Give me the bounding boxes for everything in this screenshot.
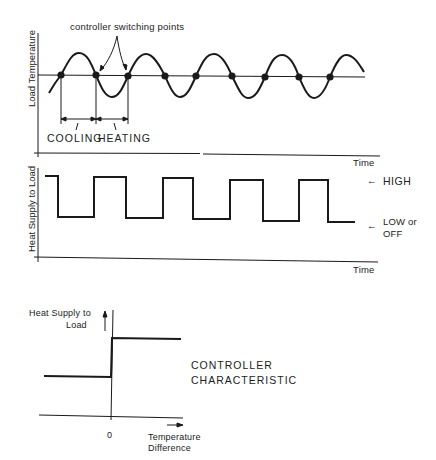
top-x-axis-right [203,154,380,156]
switching-point-dot [192,72,199,79]
switching-points-annotation: controller switching points [70,21,184,32]
switching-point-dot [261,73,268,80]
controller-title-line2: CHARACTERISTIC [191,374,297,386]
y-arrow-head-icon [103,311,107,317]
switching-point-dot [228,72,235,79]
annotation-pointers [100,36,127,71]
x-arrow-head-icon [177,423,183,427]
controller-characteristic-step [44,338,181,377]
middle-x-axis [34,257,378,262]
top-x-label: Time [353,157,375,168]
switching-point-dot [161,72,168,79]
characteristic-x-label-line1: Temperature [148,432,201,442]
high-level-label: HIGH [383,175,411,187]
origin-tick-label: 0 [107,430,112,440]
top-x-axis-left [34,153,200,154]
low-arrow-icon: ← [367,220,377,231]
characteristic-y-label-line2: Load [66,320,87,330]
switching-point-dot [92,71,99,78]
interval-markers [61,78,128,130]
characteristic-y-label-line1: Heat Supply to [29,308,91,318]
cooling-label: COOLING [47,132,102,144]
middle-x-label: Time [353,264,375,275]
characteristic-x-label-line2: Difference [148,443,191,453]
high-arrow-icon: ← [367,175,377,186]
controller-title-line1: CONTROLLER [191,359,273,371]
setpoint-line [38,75,365,77]
switching-point-dot [295,73,302,80]
heating-label: HEATING [98,132,151,144]
low-level-label-line2: OFF [383,228,403,239]
switching-point-dot [57,71,64,78]
heat-supply-square-wave [45,176,355,222]
switching-point-dot [326,73,333,80]
low-level-label-line1: LOW or [383,216,417,227]
top-y-label: Load Temperature [26,30,37,107]
middle-y-label: Heat Supply to Load [26,166,37,252]
